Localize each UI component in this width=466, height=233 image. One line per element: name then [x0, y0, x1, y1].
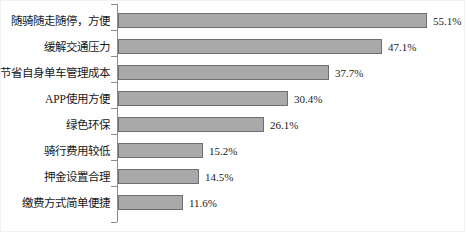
- bar: [118, 91, 288, 106]
- bar: [118, 195, 183, 210]
- value-label: 47.1%: [388, 34, 416, 60]
- bar-row: 缴费方式简单便捷11.6%: [0, 190, 466, 216]
- category-label: 缓解交通压力: [0, 34, 110, 60]
- category-label: 绿色环保: [0, 112, 110, 138]
- bar: [118, 39, 382, 54]
- value-label: 15.2%: [209, 138, 237, 164]
- value-label: 37.7%: [335, 60, 363, 86]
- category-label: 骑行费用较低: [0, 138, 110, 164]
- category-label: 节省自身单车管理成本: [0, 60, 110, 86]
- tick-mark: [111, 4, 117, 5]
- value-label: 55.1%: [433, 8, 461, 34]
- bar-row: 骑行费用较低15.2%: [0, 138, 466, 164]
- bar: [118, 169, 199, 184]
- category-label: 缴费方式简单便捷: [0, 190, 110, 216]
- bar: [118, 117, 264, 132]
- category-label: 押金设置合理: [0, 164, 110, 190]
- category-label: 随骑随走随停，方便: [0, 8, 110, 34]
- bar-row: 缓解交通压力47.1%: [0, 34, 466, 60]
- value-label: 26.1%: [270, 112, 298, 138]
- bar-row: 节省自身单车管理成本37.7%: [0, 60, 466, 86]
- bar-row: APP使用方便30.4%: [0, 86, 466, 112]
- value-label: 11.6%: [189, 190, 217, 216]
- bar-row: 随骑随走随停，方便55.1%: [0, 8, 466, 34]
- bar-row: 押金设置合理14.5%: [0, 164, 466, 190]
- bar-row: 绿色环保26.1%: [0, 112, 466, 138]
- value-label: 30.4%: [294, 86, 322, 112]
- bar: [118, 13, 427, 28]
- category-label: APP使用方便: [0, 86, 110, 112]
- bar: [118, 143, 203, 158]
- tick-mark: [111, 222, 117, 223]
- value-label: 14.5%: [205, 164, 233, 190]
- bar-chart: 随骑随走随停，方便55.1%缓解交通压力47.1%节省自身单车管理成本37.7%…: [0, 0, 466, 233]
- bar: [118, 65, 329, 80]
